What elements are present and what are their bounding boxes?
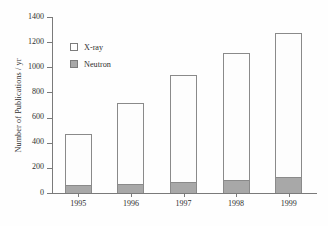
legend-item-xray: X-ray: [70, 40, 111, 54]
publications-bar-chart: Number of Publications / yr 020040060080…: [0, 0, 328, 226]
legend-swatch-neutron-icon: [70, 60, 78, 68]
y-tick-label: 600: [32, 112, 44, 121]
y-tick-label: 1000: [28, 62, 44, 71]
x-tick-label-1997: 1997: [176, 199, 192, 208]
chart-legend: X-ray Neutron: [70, 40, 111, 74]
bar-segment-neutron-1997[interactable]: [170, 182, 197, 193]
y-tick-label: 1200: [28, 37, 44, 46]
y-tick-label: 400: [32, 137, 44, 146]
legend-label-neutron: Neutron: [84, 60, 111, 69]
y-tick-200: 200: [47, 168, 52, 169]
legend-item-neutron: Neutron: [70, 57, 111, 71]
x-tick-mark-1997: [184, 193, 185, 197]
bar-segment-xray-1995[interactable]: [65, 134, 92, 186]
y-tick-1200: 1200: [47, 42, 52, 43]
y-tick-label: 1400: [28, 12, 44, 21]
y-axis-line: [52, 17, 53, 194]
bar-segment-xray-1996[interactable]: [117, 103, 144, 184]
x-tick-label-1995: 1995: [70, 199, 86, 208]
x-axis-line: [47, 193, 317, 194]
bar-segment-neutron-1995[interactable]: [65, 185, 92, 193]
y-tick-400: 400: [47, 143, 52, 144]
y-tick-label: 0: [40, 188, 44, 197]
bar-1996[interactable]: [117, 103, 144, 194]
x-tick-mark-1995: [78, 193, 79, 197]
y-tick-mark: [47, 42, 52, 43]
y-axis-title: Number of Publications / yr: [14, 31, 23, 181]
y-tick-1400: 1400: [47, 17, 52, 18]
y-tick-mark: [47, 143, 52, 144]
y-tick-label: 800: [32, 87, 44, 96]
y-tick-mark: [47, 17, 52, 18]
x-tick-mark-1998: [236, 193, 237, 197]
x-tick-label-1999: 1999: [281, 199, 297, 208]
x-tick-mark-1999: [289, 193, 290, 197]
bar-segment-neutron-1998[interactable]: [223, 180, 250, 193]
bar-segment-xray-1997[interactable]: [170, 75, 197, 181]
y-tick-mark: [47, 92, 52, 93]
legend-swatch-xray-icon: [70, 43, 78, 51]
bar-1995[interactable]: [65, 134, 92, 193]
bar-1998[interactable]: [223, 53, 250, 193]
bar-1997[interactable]: [170, 75, 197, 193]
y-tick-mark: [47, 118, 52, 119]
x-tick-mark-1996: [131, 193, 132, 197]
y-tick-mark: [47, 67, 52, 68]
y-tick-label: 200: [32, 162, 44, 171]
y-tick-600: 600: [47, 118, 52, 119]
bar-segment-xray-1999[interactable]: [275, 33, 302, 178]
legend-label-xray: X-ray: [84, 43, 103, 52]
x-tick-label-1996: 1996: [123, 199, 139, 208]
bar-segment-neutron-1999[interactable]: [275, 177, 302, 193]
y-tick-mark: [47, 193, 52, 194]
y-tick-800: 800: [47, 92, 52, 93]
bar-1999[interactable]: [275, 33, 302, 193]
x-tick-label-1998: 1998: [228, 199, 244, 208]
y-tick-0: 0: [47, 193, 52, 194]
bar-segment-neutron-1996[interactable]: [117, 184, 144, 193]
y-tick-1000: 1000: [47, 67, 52, 68]
y-tick-mark: [47, 168, 52, 169]
bar-segment-xray-1998[interactable]: [223, 53, 250, 179]
